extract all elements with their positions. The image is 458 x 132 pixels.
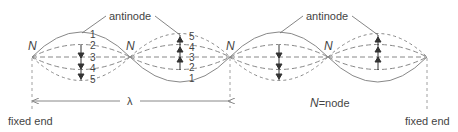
node-label-3: N xyxy=(226,39,235,53)
node-label-2: N xyxy=(126,39,135,53)
antinode-label-right: antinode xyxy=(306,10,348,22)
position-numbers-loop-1: 1 2 3 4 5 xyxy=(90,29,96,85)
svg-text:2: 2 xyxy=(90,40,96,51)
position-numbers-loop-2: 5 4 3 2 1 xyxy=(189,31,195,84)
node-legend: N=node xyxy=(310,96,350,110)
svg-text:3: 3 xyxy=(90,52,96,63)
node-label-1: N xyxy=(28,39,37,53)
antinode-label-left: antinode xyxy=(109,10,151,22)
svg-text:1: 1 xyxy=(189,73,195,84)
svg-text:5: 5 xyxy=(189,31,195,42)
fixed-end-right-label: fixed end xyxy=(405,115,450,127)
node-label-4: N xyxy=(324,39,333,53)
standing-wave-diagram: 1 2 3 4 5 5 4 3 2 1 antinode antinode N … xyxy=(0,0,458,132)
fixed-end-left-label: fixed end xyxy=(8,115,53,127)
svg-text:2: 2 xyxy=(189,62,195,73)
svg-text:1: 1 xyxy=(90,29,96,40)
svg-text:4: 4 xyxy=(90,63,96,74)
svg-text:5: 5 xyxy=(90,74,96,85)
wavelength-label: λ xyxy=(127,95,133,107)
